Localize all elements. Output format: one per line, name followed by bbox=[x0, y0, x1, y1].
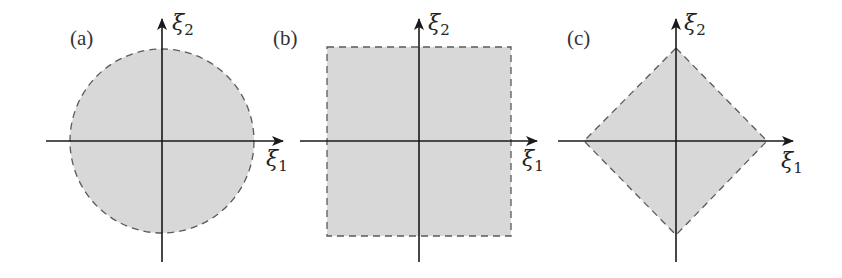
panel-b: (b) ξ2 ξ1 bbox=[273, 10, 544, 262]
xi2-axis-label: ξ2 bbox=[172, 10, 194, 39]
unit-balls-figure: (a) ξ2 ξ1 (b) ξ2 ξ1 (c) ξ2 ξ1 bbox=[0, 0, 842, 278]
panel-label: (a) bbox=[70, 26, 93, 50]
xi2-axis-label: ξ2 bbox=[428, 10, 450, 39]
xi1-axis-label: ξ1 bbox=[266, 146, 288, 175]
panel-a: (a) ξ2 ξ1 bbox=[46, 10, 288, 262]
panel-label: (c) bbox=[567, 26, 590, 50]
xi2-axis-label: ξ2 bbox=[684, 10, 706, 39]
panel-label: (b) bbox=[273, 26, 298, 50]
xi1-axis-label: ξ1 bbox=[522, 146, 544, 175]
xi1-axis-label: ξ1 bbox=[781, 148, 803, 177]
panel-c: (c) ξ2 ξ1 bbox=[558, 10, 803, 262]
